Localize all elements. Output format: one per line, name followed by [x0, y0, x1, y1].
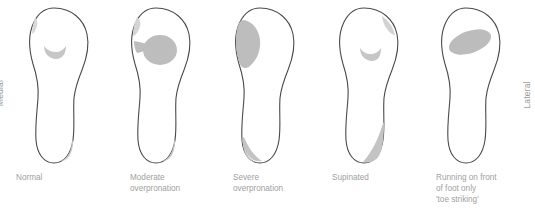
sole-outline-normal [8, 4, 112, 168]
caption-toe-striking: Running on front of foot only 'toe strik… [436, 172, 535, 205]
sole-path [30, 8, 88, 163]
sole-outline-toe-striking [420, 4, 524, 168]
caption-normal: Normal [16, 172, 120, 183]
sole-diagram-normal: Normal [8, 0, 112, 215]
sole-diagram-toe-striking: Running on front of foot only 'toe strik… [420, 0, 524, 215]
wear-forefoot-blob [143, 35, 177, 65]
sole-path [132, 8, 190, 163]
sole-diagram-supinated: Supinated [318, 0, 422, 215]
sole-outline-supinated [318, 4, 422, 168]
sole-outline-moderate [110, 4, 214, 168]
medial-axis-label: Medial [0, 80, 5, 106]
sole-diagram-moderate-overpronation: Moderate overpronation [110, 0, 214, 215]
sole-diagram-severe-overpronation: Severe overpronation [214, 0, 318, 215]
sole-outline-severe [214, 4, 318, 168]
